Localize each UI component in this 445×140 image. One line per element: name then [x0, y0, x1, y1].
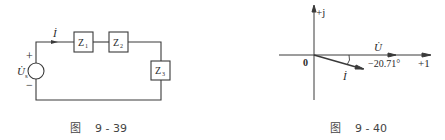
source-label-subscript: s	[25, 72, 28, 80]
source-plus-sign: +	[26, 49, 33, 63]
origin-label: 0	[303, 57, 308, 68]
current-label: İ	[52, 27, 58, 39]
phasor-diagram	[279, 5, 431, 100]
real-axis-label: +1	[418, 57, 430, 69]
impedance-z1-label: Z	[78, 37, 84, 48]
wire-top-left	[36, 42, 74, 63]
impedance-z1-subscript: 1	[85, 43, 88, 49]
impedance-z3-label: Z	[155, 65, 161, 76]
wire-right-bottom	[36, 79, 161, 100]
figure-caption-9-40: 图 9 - 40	[330, 122, 387, 135]
angle-label: −20.71°	[368, 58, 400, 69]
angle-arc	[347, 55, 350, 65]
voltage-source-icon	[28, 63, 44, 79]
impedance-z3-subscript: 3	[162, 71, 165, 77]
voltage-phasor-label: U̇	[374, 41, 383, 53]
circuit-diagram	[28, 32, 170, 100]
current-arrow-icon	[51, 40, 58, 44]
voltage-phasor-arrow-icon	[388, 53, 396, 57]
current-phasor-arrow-icon	[355, 65, 364, 69]
figure-caption-9-39: 图 9 - 39	[70, 122, 127, 135]
source-minus-sign: −	[26, 78, 33, 92]
current-phasor-label: İ	[342, 70, 348, 82]
impedance-z2-subscript: 2	[120, 43, 123, 49]
wire-top-right	[128, 42, 161, 61]
impedance-z2-label: Z	[113, 37, 119, 48]
imaginary-axis-label: +j	[316, 6, 325, 18]
